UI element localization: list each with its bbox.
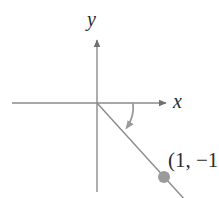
coordinate-plane-figure: y x (1, −1 [0, 0, 219, 198]
x-axis-label: x [173, 91, 182, 111]
angle-arc [127, 103, 134, 128]
point-marker [158, 171, 170, 183]
point-coordinate-label: (1, −1 [168, 150, 218, 171]
y-axis-label: y [87, 9, 96, 29]
